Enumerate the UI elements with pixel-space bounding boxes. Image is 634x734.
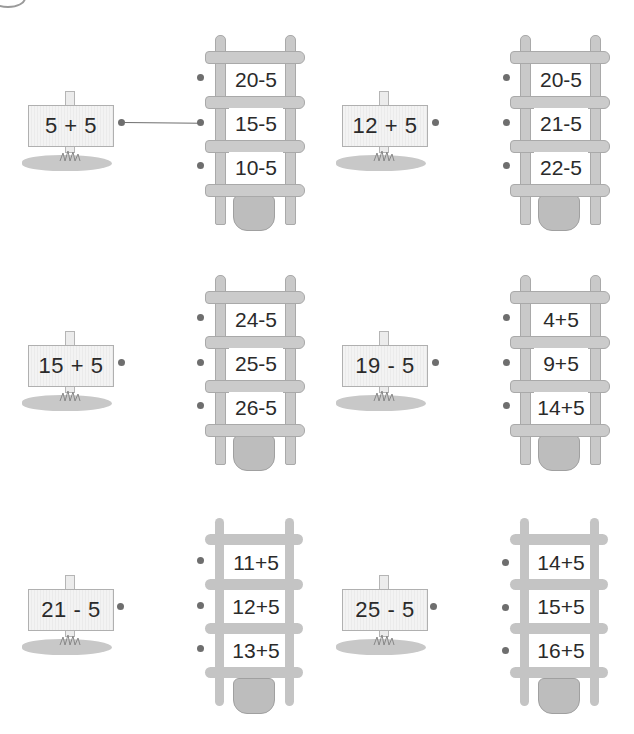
ladder-rung: [510, 424, 610, 437]
option-match-dot[interactable]: [197, 557, 204, 564]
sign-expression: 21 - 5: [28, 589, 114, 631]
option-match-dot[interactable]: [503, 119, 510, 126]
option-box: 13+5: [229, 635, 283, 667]
answer-ladder: 24-5 25-5 26-5: [205, 275, 305, 467]
problem-sign: 19 - 5: [342, 345, 428, 405]
grass-icon: [372, 389, 396, 401]
option-match-dot[interactable]: [197, 162, 204, 169]
option-box: 11+5: [229, 547, 283, 579]
ladder-rung: [205, 534, 303, 545]
sign-expression: 25 - 5: [342, 589, 428, 631]
problem-sign: 12 + 5: [342, 105, 428, 165]
sign-expression: 19 - 5: [342, 345, 428, 387]
sign-match-dot[interactable]: [430, 603, 437, 610]
option-box: 4+5: [534, 304, 588, 336]
option-match-dot[interactable]: [502, 559, 509, 566]
option-box: 21-5: [534, 108, 588, 140]
grass-icon: [58, 149, 82, 161]
option-box: 15-5: [229, 108, 283, 140]
tree-stump: [538, 195, 580, 231]
tree-stump: [233, 678, 275, 714]
ladder-rung: [510, 579, 608, 590]
ladder-rung: [205, 291, 305, 304]
problem-sign: 21 - 5: [28, 589, 114, 649]
option-match-dot[interactable]: [503, 359, 510, 366]
option-match-dot[interactable]: [502, 604, 509, 611]
ladder-rung: [510, 51, 610, 64]
option-match-dot[interactable]: [503, 314, 510, 321]
sign-match-dot[interactable]: [432, 359, 439, 366]
grass-icon: [372, 633, 396, 645]
ladder-rung: [205, 579, 303, 590]
tree-stump: [538, 435, 580, 471]
option-box: 20-5: [229, 64, 283, 96]
tree-stump: [233, 195, 275, 231]
ladder-rung: [205, 51, 305, 64]
option-box: 14+5: [534, 392, 588, 424]
page-corner-decoration: [0, 0, 26, 8]
grass-icon: [58, 633, 82, 645]
answer-ladder: 4+5 9+5 14+5: [510, 275, 610, 467]
ladder-rung: [510, 623, 608, 634]
answer-ladder: 20-5 15-5 10-5: [205, 35, 305, 227]
option-box: 24-5: [229, 304, 283, 336]
ladder-rung: [205, 184, 305, 197]
option-box: 9+5: [534, 348, 588, 380]
ladder-rung: [510, 291, 610, 304]
answer-connector-line: [122, 122, 202, 124]
option-box: 22-5: [534, 152, 588, 184]
sign-match-dot[interactable]: [432, 119, 439, 126]
answer-ladder: 20-5 21-5 22-5: [510, 35, 610, 227]
answer-ladder: 11+5 12+5 13+5: [205, 518, 305, 710]
sign-match-dot[interactable]: [118, 359, 125, 366]
option-box: 14+5: [534, 547, 588, 579]
sign-expression: 15 + 5: [28, 345, 114, 387]
problem-sign: 15 + 5: [28, 345, 114, 405]
option-match-dot[interactable]: [197, 359, 204, 366]
option-box: 26-5: [229, 392, 283, 424]
tree-stump: [233, 435, 275, 471]
option-box: 12+5: [229, 591, 283, 623]
answer-ladder: 14+5 15+5 16+5: [510, 518, 610, 710]
option-box: 16+5: [534, 635, 588, 667]
option-match-dot[interactable]: [197, 314, 204, 321]
ladder-rung: [510, 667, 608, 678]
option-match-dot[interactable]: [502, 647, 509, 654]
ladder-rung: [205, 667, 303, 678]
option-box: 20-5: [534, 64, 588, 96]
option-box: 25-5: [229, 348, 283, 380]
option-match-dot[interactable]: [197, 119, 204, 126]
problem-sign: 25 - 5: [342, 589, 428, 649]
grass-icon: [372, 149, 396, 161]
option-box: 15+5: [534, 591, 588, 623]
option-match-dot[interactable]: [197, 602, 204, 609]
sign-expression: 5 + 5: [28, 105, 114, 147]
grass-icon: [58, 389, 82, 401]
option-match-dot[interactable]: [197, 645, 204, 652]
ladder-rung: [205, 623, 303, 634]
tree-stump: [538, 678, 580, 714]
option-box: 10-5: [229, 152, 283, 184]
option-match-dot[interactable]: [503, 162, 510, 169]
option-match-dot[interactable]: [197, 402, 204, 409]
option-match-dot[interactable]: [197, 74, 204, 81]
ladder-rung: [510, 534, 608, 545]
problem-sign: 5 + 5: [28, 105, 114, 165]
option-match-dot[interactable]: [503, 74, 510, 81]
sign-expression: 12 + 5: [342, 105, 428, 147]
ladder-rung: [510, 184, 610, 197]
option-match-dot[interactable]: [503, 402, 510, 409]
ladder-rung: [205, 424, 305, 437]
sign-match-dot[interactable]: [117, 603, 124, 610]
